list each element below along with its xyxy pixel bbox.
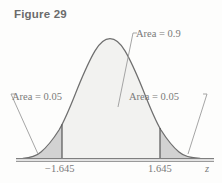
annotation-left-tail-area: Area = 0.05: [12, 91, 62, 102]
annotation-center-area: Area = 0.9: [136, 28, 181, 39]
x-axis-label: z: [205, 163, 209, 174]
annotation-right-tail-area: Area = 0.05: [129, 91, 179, 102]
leader-line-left-area: [11, 94, 38, 154]
right-tail-shaded-region: [160, 128, 200, 158]
figure-container: Figure 29 Area = 0.9 Area = 0.05 Area = …: [0, 0, 222, 183]
x-tick-label-negative-1645: −1.645: [45, 163, 75, 174]
left-tail-shaded-region: [23, 124, 62, 158]
leader-line-right-area: [188, 94, 207, 154]
x-tick-label-positive-1645: 1.645: [148, 163, 172, 174]
